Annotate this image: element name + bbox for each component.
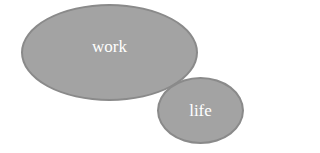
life-label: life: [189, 101, 212, 121]
life-ellipse: life: [157, 77, 244, 144]
work-label: work: [92, 37, 127, 57]
